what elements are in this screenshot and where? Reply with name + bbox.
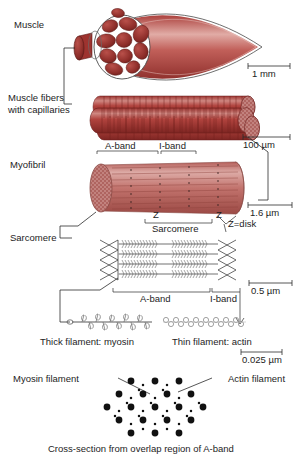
band-label-myofibril-aband: A-band [105,140,136,151]
cross-section-caption: Cross-section from overlap region of A-b… [48,443,234,454]
myosin-filament-label: Myosin filament [13,373,79,384]
z-disk-label: Z=disk [228,218,256,229]
band-label-sarcomere-iband: I-band [210,293,237,304]
level-label-sarcomere: Sarcomere [10,232,56,243]
thin-filament-detail [163,317,246,326]
scale-label-1p6um: 1.6 µm [250,207,279,218]
sarcomere-illustration [60,240,244,324]
scale-label-100um: 100 µm [243,139,275,150]
scale-label-0p5um: 0.5 µm [251,285,280,296]
band-label-sarcomere-aband: A-band [140,293,171,304]
band-label-myofibril-iband: I-band [159,140,186,151]
muscle-structure-figure: Muscle Muscle fibers with capillaries My… [0,0,298,454]
level-label-muscle-fibers-line2: with capillaries [8,104,70,115]
level-label-myofibril: Myofibril [10,159,45,170]
scale-label-1mm: 1 mm [252,68,276,79]
cross-section-lattice [104,378,212,437]
level-label-muscle-fibers-line1: Muscle fibers [8,92,64,103]
scale-label-0p025um: 0.025 µm [242,354,282,365]
sarcomere-bracket-label: Sarcomere [152,223,198,234]
actin-filament-label: Actin filament [228,373,285,384]
z-label-left: Z [153,209,159,220]
thin-filament-label: Thin filament: actin [172,336,252,347]
actin-leader-line [178,378,212,392]
level-label-muscle: Muscle [14,19,44,30]
thick-filament-label: Thick filament: myosin [40,336,134,347]
thick-filament-rows [118,240,218,278]
z-label-right: Z [216,209,222,220]
thick-filament-detail [67,314,152,330]
myofibril-band-brackets [97,151,196,154]
muscle-illustration [64,8,262,104]
